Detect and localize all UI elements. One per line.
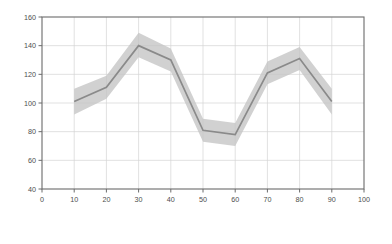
x-axis-tick-label: 70 [263,195,271,204]
x-axis-tick-label: 60 [231,195,239,204]
x-axis-tick-label: 10 [70,195,78,204]
x-axis-tick-label: 50 [199,195,207,204]
y-axis-tick-label: 60 [28,156,36,165]
x-axis-tick-label: 80 [296,195,304,204]
y-axis-tick-label: 160 [24,13,36,22]
y-axis-tick-label: 80 [28,127,36,136]
x-axis-tick-label: 90 [328,195,336,204]
y-axis-tick-label: 120 [24,70,36,79]
x-axis-tick-label: 100 [358,195,370,204]
chart-figure: 406080100120140160 010203040506070809010… [0,0,392,244]
x-axis-tick-label: 40 [167,195,175,204]
line-chart-with-error-band: 406080100120140160 010203040506070809010… [0,0,392,244]
y-axis-tick-label: 40 [28,185,36,194]
x-axis-tick-label: 20 [102,195,110,204]
x-axis-tick-label: 30 [135,195,143,204]
x-axis-tick-label: 0 [40,195,44,204]
y-axis-tick-label: 140 [24,41,36,50]
y-axis-tick-label: 100 [24,99,36,108]
